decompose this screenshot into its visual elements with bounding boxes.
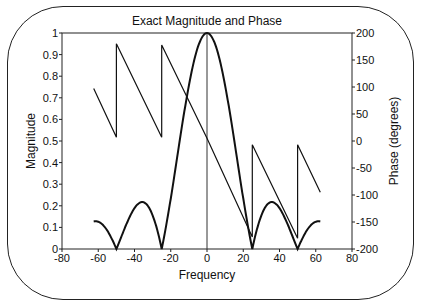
x-axis: -80-60-40-20020406080 bbox=[54, 249, 358, 264]
y-tick-label: 0.8 bbox=[43, 70, 58, 82]
y-tick-label: 0.1 bbox=[43, 221, 58, 233]
y-tick-label: 0.4 bbox=[43, 157, 58, 169]
x-tick-label: 60 bbox=[310, 252, 322, 264]
y-tick-label: 0.9 bbox=[43, 49, 58, 61]
y2-tick-label: 50 bbox=[356, 108, 368, 120]
y-tick-label: 0.2 bbox=[43, 200, 58, 212]
x-tick-label: -60 bbox=[90, 252, 106, 264]
y2-tick-label: -100 bbox=[356, 189, 378, 201]
y2-tick-label: 150 bbox=[356, 54, 374, 66]
y2-tick-label: 200 bbox=[356, 27, 374, 39]
y2-tick-label: 0 bbox=[356, 135, 362, 147]
x-tick-label: -20 bbox=[163, 252, 179, 264]
x-tick-label: 0 bbox=[204, 252, 210, 264]
y-tick-label: 0.7 bbox=[43, 92, 58, 104]
y2-tick-label: -50 bbox=[356, 162, 372, 174]
y2-tick-label: 100 bbox=[356, 81, 374, 93]
x-tick-label: 40 bbox=[273, 252, 285, 264]
y-tick-label: 0.6 bbox=[43, 113, 58, 125]
chart-title: Exact Magnitude and Phase bbox=[132, 14, 282, 28]
x-tick-label: -40 bbox=[127, 252, 143, 264]
y-tick-label: 0.3 bbox=[43, 178, 58, 190]
x-axis-title: Frequency bbox=[179, 268, 236, 282]
y-tick-label: 0 bbox=[52, 243, 58, 255]
y-axis-title: Magnitude bbox=[24, 113, 38, 169]
y-tick-label: 0.5 bbox=[43, 135, 58, 147]
y-tick-label: 1 bbox=[52, 27, 58, 39]
y2-axis-title: Phase (degrees) bbox=[387, 97, 401, 186]
chart: Exact Magnitude and Phase -80-60-40-2002… bbox=[0, 0, 424, 308]
x-tick-label: 20 bbox=[237, 252, 249, 264]
y-axis-left: 00.10.20.30.40.50.60.70.80.91 bbox=[43, 27, 62, 255]
y-axis-right: -200-150-100-50050100150200 bbox=[352, 27, 378, 255]
y2-tick-label: -150 bbox=[356, 216, 378, 228]
y2-tick-label: -200 bbox=[356, 243, 378, 255]
